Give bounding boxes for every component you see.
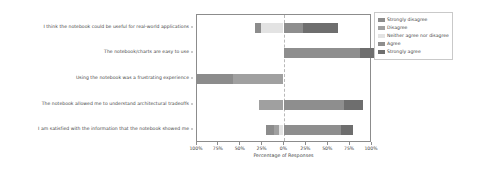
y-axis-label: Using the notebook was a frustrating exp… bbox=[76, 75, 189, 81]
legend-item[interactable]: Neither agree nor disagree bbox=[378, 32, 449, 40]
legend-swatch-icon bbox=[378, 34, 385, 38]
bar-segment bbox=[233, 74, 283, 84]
y-axis-tick bbox=[191, 52, 194, 53]
legend-label: Disagree bbox=[387, 24, 407, 32]
legend-swatch-icon bbox=[378, 18, 385, 22]
x-axis-tick-label: 0% bbox=[280, 146, 287, 151]
legend-swatch-icon bbox=[378, 50, 385, 54]
y-axis-category-labels: I think the notebook could be useful for… bbox=[0, 14, 193, 142]
x-axis-tick-label: 50% bbox=[235, 146, 245, 151]
legend-label: Neither agree nor disagree bbox=[387, 32, 449, 40]
x-axis: Percentage of Responses 100%75%50%25%0%2… bbox=[196, 142, 371, 172]
y-axis-tick bbox=[191, 78, 194, 79]
x-axis-tick bbox=[261, 142, 262, 145]
legend-label: Strongly agree bbox=[387, 48, 421, 56]
bar-segment bbox=[261, 23, 283, 33]
legend-label: Strongly disagree bbox=[387, 16, 427, 24]
x-axis-tick-label: 75% bbox=[344, 146, 354, 151]
bar-segment bbox=[344, 100, 363, 110]
legend-label: Agree bbox=[387, 40, 401, 48]
x-axis-tick bbox=[217, 142, 218, 145]
bar-segment bbox=[303, 23, 338, 33]
y-axis-label: I am satisfied with the information that… bbox=[38, 126, 189, 132]
bar-segment bbox=[341, 125, 352, 135]
x-axis-tick-label: 75% bbox=[213, 146, 223, 151]
x-axis-tick bbox=[349, 142, 350, 145]
x-axis-tick-label: 25% bbox=[300, 146, 310, 151]
legend-swatch-icon bbox=[378, 26, 385, 30]
y-axis-tick bbox=[191, 26, 194, 27]
legend-swatch-icon bbox=[378, 42, 385, 46]
x-axis-tick-label: 50% bbox=[322, 146, 332, 151]
y-axis-tick bbox=[191, 103, 194, 104]
chart-legend: Strongly disagreeDisagreeNeither agree n… bbox=[374, 12, 453, 60]
y-axis-tick bbox=[191, 129, 194, 130]
x-axis-tick bbox=[196, 142, 197, 145]
x-axis-tick bbox=[371, 142, 372, 145]
bar-row bbox=[197, 23, 370, 33]
x-axis-tick-label: 100% bbox=[189, 146, 202, 151]
bar-row bbox=[197, 125, 370, 135]
x-axis-tick-label: 25% bbox=[257, 146, 267, 151]
bar-segment bbox=[284, 125, 342, 135]
bar-segment bbox=[284, 48, 361, 58]
x-axis-title: Percentage of Responses bbox=[253, 153, 313, 158]
bar-segment bbox=[197, 74, 233, 84]
x-axis-tick bbox=[239, 142, 240, 145]
bar-segment bbox=[259, 100, 283, 110]
bar-segment bbox=[284, 100, 345, 110]
x-axis-tick bbox=[305, 142, 306, 145]
legend-item[interactable]: Strongly disagree bbox=[378, 16, 449, 24]
x-axis-tick bbox=[327, 142, 328, 145]
legend-item[interactable]: Disagree bbox=[378, 24, 449, 32]
y-axis-label: The notebook allowed me to understand ar… bbox=[42, 101, 189, 107]
bar-segment bbox=[284, 23, 304, 33]
y-axis-label: The notebook/charts are easy to use bbox=[104, 49, 189, 55]
bar-row bbox=[197, 74, 370, 84]
x-axis-tick-label: 100% bbox=[364, 146, 377, 151]
bar-row bbox=[197, 100, 370, 110]
y-axis-label: I think the notebook could be useful for… bbox=[43, 24, 189, 30]
legend-item[interactable]: Agree bbox=[378, 40, 449, 48]
legend-item[interactable]: Strongly agree bbox=[378, 48, 449, 56]
bar-segment bbox=[266, 125, 274, 135]
bar-row bbox=[197, 48, 370, 58]
likert-diverging-bar-chart: I think the notebook could be useful for… bbox=[0, 0, 483, 172]
x-axis-tick bbox=[283, 142, 284, 145]
plot-area bbox=[196, 14, 371, 142]
